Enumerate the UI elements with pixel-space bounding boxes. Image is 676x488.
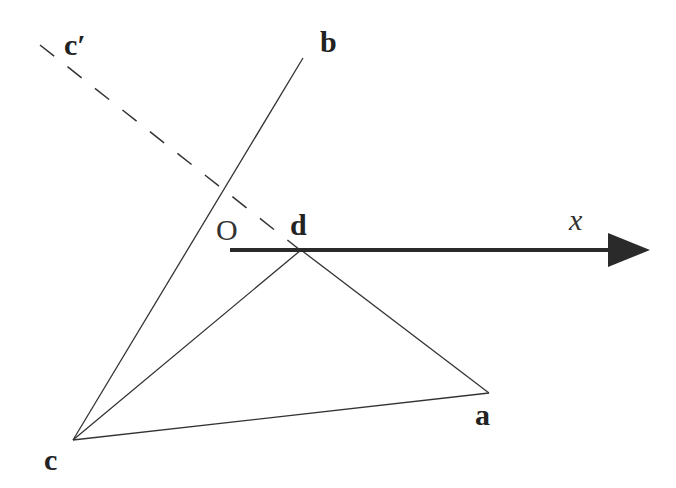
geometry-diagram: c′ b O d x a c (0, 0, 676, 488)
x-axis-arrowhead-icon (608, 233, 650, 267)
label-c: c (44, 443, 57, 476)
dashed-line-cprime-d (40, 45, 300, 250)
line-c-a (73, 393, 489, 440)
label-x: x (568, 203, 583, 236)
label-c-prime: c′ (64, 28, 86, 61)
line-d-a (301, 250, 489, 393)
label-a: a (475, 398, 490, 431)
label-O: O (216, 213, 238, 246)
line-c-d (73, 250, 301, 440)
label-b: b (320, 25, 337, 58)
label-d: d (290, 208, 307, 241)
